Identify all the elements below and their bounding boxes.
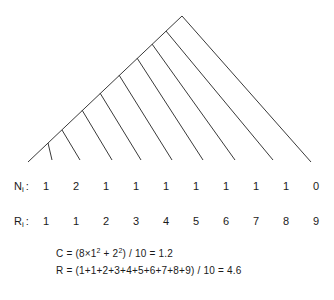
cell-n-5: 1 — [158, 180, 174, 192]
cell-r-9: 8 — [278, 215, 294, 227]
branch-2 — [62, 130, 80, 160]
cell-r-3: 2 — [98, 215, 114, 227]
cell-r-6: 5 — [188, 215, 204, 227]
row-r-values: Ri: 1 1 2 3 4 5 6 7 8 9 — [0, 215, 334, 235]
equation-c-suffix: ) / 10 = 1.2 — [122, 248, 173, 259]
row-n-label: Ni: — [14, 180, 29, 194]
branch-5 — [119, 75, 172, 160]
figure-container: Ni: 1 2 1 1 1 1 1 1 1 0 Ri: 1 1 2 3 4 5 … — [0, 0, 334, 300]
tree-diagram — [0, 0, 334, 175]
cell-n-10: 0 — [308, 180, 324, 192]
cell-n-8: 1 — [248, 180, 264, 192]
branch-8 — [166, 31, 273, 160]
equation-c: C = (8×12 + 22) / 10 = 1.2 — [56, 248, 173, 259]
cell-r-1: 1 — [38, 215, 54, 227]
apex-right-branch — [182, 16, 311, 162]
cell-r-5: 4 — [158, 215, 174, 227]
cell-r-10: 9 — [308, 215, 324, 227]
row-n-colon: : — [26, 180, 29, 192]
equation-c-prefix: C = (8×1 — [56, 248, 97, 259]
cell-r-8: 7 — [248, 215, 264, 227]
branch-6 — [137, 58, 203, 160]
cell-n-9: 1 — [278, 180, 294, 192]
cell-r-7: 6 — [218, 215, 234, 227]
row-r-label: Ri: — [14, 215, 29, 229]
backbone-line — [28, 16, 182, 162]
cell-r-4: 3 — [128, 215, 144, 227]
tree-branch-group — [48, 31, 273, 160]
row-r-subscript: i — [22, 220, 24, 229]
row-n-values: Ni: 1 2 1 1 1 1 1 1 1 0 — [0, 180, 334, 200]
equation-r: R = (1+1+2+3+4+5+6+7+8+9) / 10 = 4.6 — [56, 265, 241, 276]
cell-n-4: 1 — [128, 180, 144, 192]
branch-3 — [82, 110, 112, 160]
cell-r-2: 1 — [68, 215, 84, 227]
cell-n-1: 1 — [38, 180, 54, 192]
branch-1 — [48, 143, 52, 160]
cell-n-3: 1 — [98, 180, 114, 192]
cell-n-2: 2 — [68, 180, 84, 192]
tree-backbone-group — [28, 16, 311, 162]
row-n-subscript: i — [22, 185, 24, 194]
equation-c-middle: + 2 — [101, 248, 119, 259]
cell-n-7: 1 — [218, 180, 234, 192]
cell-n-6: 1 — [188, 180, 204, 192]
row-r-colon: : — [26, 215, 29, 227]
